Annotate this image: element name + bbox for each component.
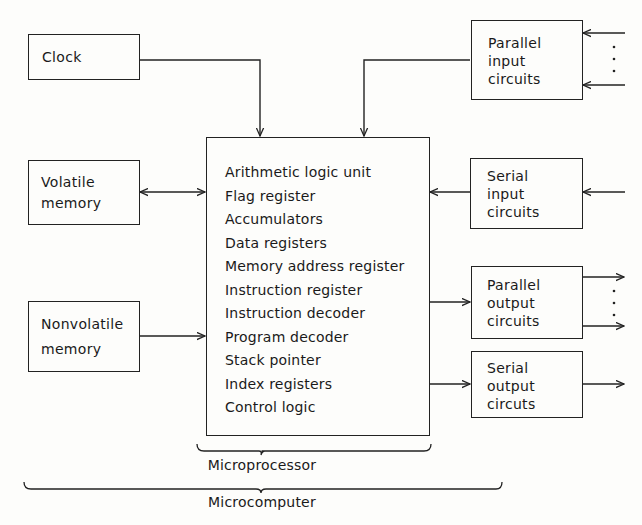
volatile-memory-label: Volatile memory [41,175,101,211]
clock-label: Clock [42,50,82,65]
clock-block: Clock [28,34,140,80]
serial-output-label: Serial output circuts [487,359,536,413]
microprocessor-component-list: Arithmetic logic unit Flag register Accu… [225,161,404,420]
nonvolatile-memory-label: Nonvolatile memory [41,317,123,357]
parallel-output-label: Parallel output circuits [487,276,540,330]
component-alu: Arithmetic logic unit [225,161,404,185]
parallel-output-dot [613,302,616,305]
clock-to-processor-arrow [139,60,260,136]
microprocessor-brace [197,444,431,455]
parallel-input-dot [613,58,616,61]
microprocessor-caption: Microprocessor [200,457,324,473]
component-program-decoder: Program decoder [225,326,404,350]
microcomputer-brace [24,482,502,493]
serial-output-block: Serial output circuts [471,351,583,418]
microcomputer-caption: Microcomputer [200,494,324,510]
component-instruction-decoder: Instruction decoder [225,302,404,326]
parallel-output-block: Parallel output circuits [471,266,583,339]
microprocessor-block: Arithmetic logic unit Flag register Accu… [206,137,430,436]
serial-input-label: Serial input circuits [487,167,540,221]
nonvolatile-memory-block: Nonvolatile memory [28,301,140,372]
component-accumulators: Accumulators [225,208,404,232]
component-instruction-register: Instruction register [225,279,404,303]
parallel-input-label: Parallel input circuits [488,34,541,88]
serial-input-block: Serial input circuits [470,158,583,229]
component-control-logic: Control logic [225,396,404,420]
parallel-input-to-processor-arrow [364,60,470,136]
component-memory-address-register: Memory address register [225,255,404,279]
component-flag-register: Flag register [225,185,404,209]
parallel-input-dot [613,46,616,49]
volatile-memory-block: Volatile memory [28,160,140,225]
parallel-output-dot [613,314,616,317]
parallel-output-dot [613,290,616,293]
component-index-registers: Index registers [225,373,404,397]
parallel-input-block: Parallel input circuits [471,20,583,100]
component-stack-pointer: Stack pointer [225,349,404,373]
component-data-registers: Data registers [225,232,404,256]
parallel-input-dot [613,70,616,73]
